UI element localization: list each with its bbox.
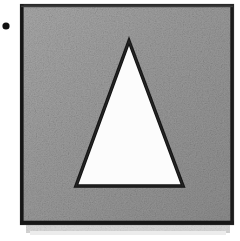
bullet-dot	[2, 22, 9, 29]
figure-container: Gray textured square containing a white …	[0, 0, 240, 241]
drop-shadow-smudge	[26, 224, 230, 235]
figure-canvas	[0, 0, 240, 241]
